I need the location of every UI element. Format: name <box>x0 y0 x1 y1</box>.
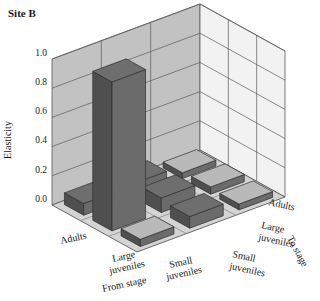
y-tick-0.4: 0.4 <box>35 135 47 145</box>
to-stage-label-small-juveniles-line2: juveniles <box>228 260 267 278</box>
chart-scene <box>52 4 285 252</box>
bar-large-juveniles-to-adults <box>93 59 146 231</box>
elasticity-3d-bar-chart: Site B Elasticity 1.0 0.8 0.6 0.4 0.2 0.… <box>0 0 320 301</box>
y-tick-0.0: 0.0 <box>35 194 47 204</box>
x-axis-label: From stage <box>101 274 148 294</box>
y-axis-label: Elasticity <box>2 121 13 159</box>
y-tick-0.8: 0.8 <box>35 77 47 87</box>
to-stage-label-adults: Adults <box>268 196 296 212</box>
from-stage-label-adults: Adults <box>59 230 87 246</box>
chart-title: Site B <box>8 7 36 19</box>
chart-container: Site B Elasticity 1.0 0.8 0.6 0.4 0.2 0.… <box>0 0 320 301</box>
y-tick-0.6: 0.6 <box>35 106 47 116</box>
y-tick-0.2: 0.2 <box>35 165 47 175</box>
z-axis-label: To stage <box>285 234 311 269</box>
y-tick-1.0: 1.0 <box>35 48 47 58</box>
